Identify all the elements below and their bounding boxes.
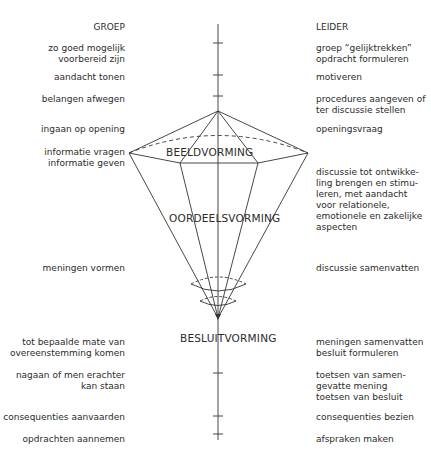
phase-oordeelsvorming: OORDEELSVORMING [169,212,280,224]
leider-item: toetsen van samen- gevatte mening toetse… [316,370,431,403]
leider-item: meningen samenvatten besluit formuleren [316,337,431,359]
phase-besluitvorming: BESLUITVORMING [180,332,277,344]
leider-item: consequenties bezien [316,412,431,423]
groep-item: belangen afwegen [0,94,125,105]
groep-item: consequenties aanvaarden [0,412,125,423]
groep-item: tot bepaalde mate van overeenstemming ko… [0,337,125,359]
groep-item: meningen vormen [0,263,125,274]
leider-item: groep “gelijktrekken” opdracht formulere… [316,43,431,65]
groep-item: opdrachten aannemen [0,434,125,445]
leider-item: motiveren [316,72,431,83]
phase-beeldvorming: BEELDVORMING [166,146,253,158]
leider-item: discussie tot ontwikke- ling brengen en … [316,167,431,233]
groep-item: zo goed mogelijk voorbereid zijn [0,43,125,65]
groep-item: aandacht tonen [0,72,125,83]
leider-item: openingsvraag [316,124,431,135]
groep-item: nagaan of men erachter kan staan [0,370,125,392]
groep-item: informatie vragen informatie geven [0,147,125,169]
groep-item: ingaan op opening [0,124,125,135]
leider-item: procedures aangeven of ter discussie ste… [316,94,431,116]
leider-item: afspraken maken [316,434,431,445]
leider-header: LEIDER [316,22,431,33]
leider-item: discussie samenvatten [316,263,431,274]
groep-header: GROEP [0,22,125,33]
